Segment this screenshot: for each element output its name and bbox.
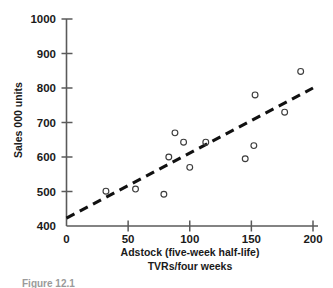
figure-container: 4005006007008009001000 050100150200 Sale… bbox=[0, 0, 333, 288]
x-tick-labels: 050100150200 bbox=[63, 233, 322, 245]
trend-line bbox=[67, 88, 314, 218]
data-point bbox=[251, 143, 257, 149]
data-point bbox=[298, 69, 304, 75]
x-tick-label-100: 100 bbox=[180, 233, 199, 245]
y-tick-label-800: 800 bbox=[37, 82, 56, 94]
data-point bbox=[133, 186, 139, 192]
x-axis-title-line1: Adstock (five-week half-life) bbox=[121, 246, 260, 258]
y-tick-label-600: 600 bbox=[37, 151, 56, 163]
scatter-chart: 4005006007008009001000 050100150200 Sale… bbox=[0, 0, 333, 288]
data-point bbox=[181, 139, 187, 145]
x-tick-label-150: 150 bbox=[242, 233, 261, 245]
data-point bbox=[282, 109, 288, 115]
y-axis-title: Sales 000 units bbox=[12, 82, 24, 158]
plot-area bbox=[67, 69, 314, 219]
y-tick-label-500: 500 bbox=[37, 186, 56, 198]
data-point bbox=[172, 130, 178, 136]
data-point-series bbox=[103, 69, 304, 198]
y-tick-label-1000: 1000 bbox=[30, 13, 56, 25]
x-tick-label-50: 50 bbox=[122, 233, 135, 245]
data-point bbox=[187, 164, 193, 170]
figure-caption: Figure 12.1 bbox=[22, 278, 75, 288]
y-tick-label-900: 900 bbox=[37, 48, 56, 60]
data-point bbox=[242, 156, 248, 162]
x-tick-label-0: 0 bbox=[63, 233, 69, 245]
data-point bbox=[252, 92, 258, 98]
data-point bbox=[161, 191, 167, 197]
data-point bbox=[103, 188, 109, 194]
y-axis-group: 4005006007008009001000 bbox=[30, 13, 72, 232]
y-tick-label-700: 700 bbox=[37, 117, 56, 129]
x-axis-group: 050100150200 bbox=[63, 221, 322, 246]
y-tick-labels: 4005006007008009001000 bbox=[30, 13, 56, 232]
y-tick-label-400: 400 bbox=[37, 220, 56, 232]
x-axis-title-line2: TVRs/four weeks bbox=[148, 260, 233, 272]
data-point bbox=[166, 154, 172, 160]
x-tick-label-200: 200 bbox=[303, 233, 322, 245]
